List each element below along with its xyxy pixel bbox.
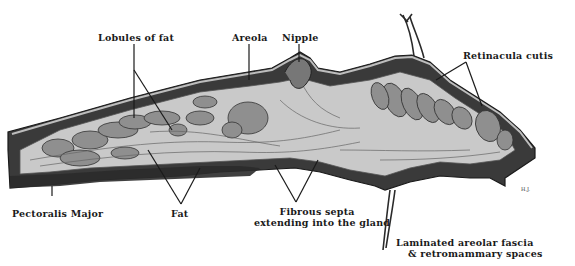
label-laminated-areolar-fascia: Laminated areolar fascia & retromammary … [396, 237, 543, 259]
label-laminated-line1: Laminated areolar fascia [396, 237, 543, 248]
label-lobules-of-fat: Lobules of fat [98, 32, 174, 43]
label-pectoralis-major: Pectoralis Major [12, 208, 103, 219]
retracted-skin-flap [400, 14, 424, 58]
label-retinacula-cutis: Retinacula cutis [463, 50, 553, 61]
label-nipple: Nipple [282, 32, 318, 43]
label-fibrous-septa-line2: extending into the gland [254, 217, 390, 228]
label-fibrous-septa: Fibrous septa extending into the gland [244, 206, 390, 228]
anatomy-figure: H.J. Lobules of fat Areola Nipple Retina… [0, 0, 575, 266]
label-areola: Areola [232, 32, 268, 43]
artist-signature: H.J. [521, 186, 531, 193]
label-fibrous-septa-line1: Fibrous septa [244, 206, 390, 217]
label-laminated-line2: & retromammary spaces [408, 248, 543, 259]
label-fat: Fat [171, 208, 188, 219]
